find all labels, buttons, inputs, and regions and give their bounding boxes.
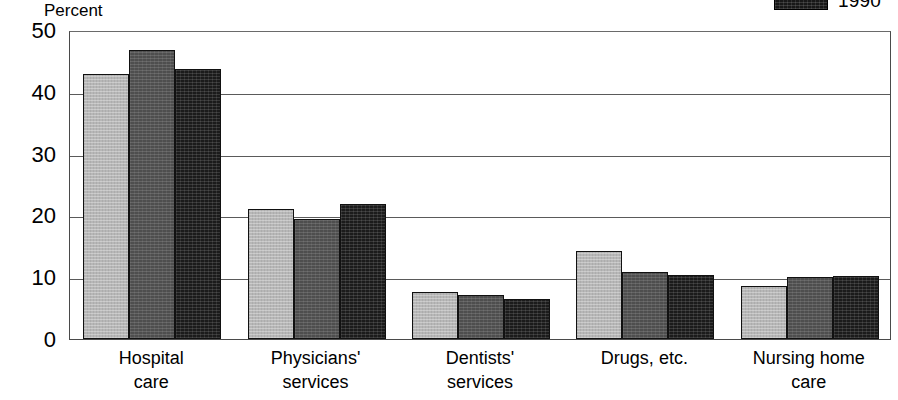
x-category-label-line2: care — [727, 370, 891, 394]
bar — [668, 275, 714, 339]
y-axis-tick-labels: 01020304050 — [0, 31, 62, 340]
plot-area — [69, 31, 891, 340]
x-axis-category-labels: HospitalcarePhysicians'servicesDentists'… — [69, 346, 891, 400]
x-category-label-line2: services — [398, 370, 562, 394]
bar-group — [741, 32, 879, 339]
x-category-label: Dentists'services — [398, 346, 562, 394]
bar — [504, 299, 550, 339]
chart-legend: 1990 — [774, 0, 881, 10]
y-tick-label: 50 — [0, 20, 62, 42]
bar — [175, 69, 221, 339]
x-category-label-line1: Nursing home — [753, 348, 865, 368]
y-tick-label: 0 — [0, 329, 62, 351]
bar-group — [248, 32, 386, 339]
bar — [129, 50, 175, 339]
x-category-label-line1: Hospital — [119, 348, 184, 368]
bar — [294, 219, 340, 339]
x-category-label-line2: services — [233, 370, 397, 394]
y-tick-label: 10 — [0, 267, 62, 289]
bar — [340, 204, 386, 339]
y-tick-label: 20 — [0, 205, 62, 227]
x-category-label-line2: care — [69, 370, 233, 394]
bar — [741, 286, 787, 339]
bar — [622, 272, 668, 339]
legend-swatch-1990 — [774, 0, 828, 10]
bar — [576, 251, 622, 339]
bar-group — [412, 32, 550, 339]
x-category-label: Hospitalcare — [69, 346, 233, 394]
x-category-label: Drugs, etc. — [562, 346, 726, 370]
bar — [412, 292, 458, 339]
x-category-label-line1: Drugs, etc. — [601, 348, 688, 368]
bar-group — [83, 32, 221, 339]
bar-group — [576, 32, 714, 339]
legend-label-1990: 1990 — [838, 0, 881, 10]
y-tick-label: 30 — [0, 144, 62, 166]
x-category-label-line1: Dentists' — [446, 348, 514, 368]
bar — [787, 277, 833, 339]
bar-chart: Percent 1990 01020304050 HospitalcarePhy… — [0, 0, 898, 400]
x-category-label-line1: Physicians' — [271, 348, 360, 368]
bar-groups — [70, 32, 890, 339]
bar — [83, 74, 129, 339]
x-category-label: Physicians'services — [233, 346, 397, 394]
bar — [833, 276, 879, 339]
x-category-label: Nursing homecare — [727, 346, 891, 394]
bar — [248, 209, 294, 339]
bar — [458, 295, 504, 339]
y-tick-label: 40 — [0, 82, 62, 104]
